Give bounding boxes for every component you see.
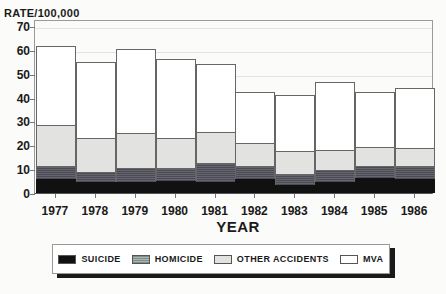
gridline (35, 52, 432, 53)
x-axis-title: YEAR (0, 218, 446, 235)
plot-area (34, 20, 433, 194)
legend-item-homicide: HOMICIDE (132, 254, 203, 264)
x-tick-label: 1977 (35, 204, 75, 218)
x-tick-label: 1983 (274, 204, 314, 218)
x-tick-label: 1981 (195, 204, 235, 218)
legend-label: SUICIDE (81, 254, 120, 264)
y-tick-label: 40 (0, 92, 30, 106)
y-tick-mark (30, 51, 35, 52)
y-tick-label: 30 (0, 115, 30, 129)
x-tick-label: 1982 (234, 204, 274, 218)
y-tick-mark (30, 170, 35, 171)
bar-segment-homicide (395, 166, 435, 179)
y-tick-mark (30, 27, 35, 28)
bar-segment-other (116, 133, 156, 168)
y-tick-mark (30, 99, 35, 100)
bar-segment-suicide (76, 182, 116, 193)
legend-swatch-mva (340, 255, 358, 264)
y-tick-label: 50 (0, 68, 30, 82)
bar-segment-other (36, 125, 76, 166)
bar-segment-mva (156, 59, 196, 138)
x-tick-mark (175, 194, 176, 198)
bar-segment-other (235, 143, 275, 166)
bar-segment-other (156, 138, 196, 168)
bar-1985 (355, 92, 395, 193)
bar-segment-homicide (235, 166, 275, 179)
legend-item-mva: MVA (340, 254, 384, 264)
x-tick-mark (374, 194, 375, 198)
x-tick-mark (95, 194, 96, 198)
x-tick-mark (55, 194, 56, 198)
x-tick-label: 1985 (354, 204, 394, 218)
bar-1981 (196, 64, 236, 193)
bar-segment-homicide (196, 163, 236, 182)
bar-segment-other (395, 148, 435, 166)
bar-segment-mva (76, 62, 116, 138)
y-tick-mark (30, 75, 35, 76)
bar-segment-mva (395, 88, 435, 148)
x-tick-label: 1986 (394, 204, 434, 218)
bar-segment-other (355, 147, 395, 166)
bar-segment-mva (196, 64, 236, 132)
bar-1984 (315, 82, 355, 193)
bar-1980 (156, 59, 196, 193)
bar-1982 (235, 92, 275, 193)
bar-1977 (36, 46, 76, 193)
legend-item-suicide: SUICIDE (58, 254, 120, 264)
bar-segment-homicide (116, 168, 156, 182)
y-tick-mark (30, 194, 35, 195)
bar-segment-suicide (156, 181, 196, 193)
bar-segment-other (275, 151, 315, 174)
y-tick-mark (30, 122, 35, 123)
bar-segment-other (76, 138, 116, 171)
x-tick-label: 1980 (155, 204, 195, 218)
bar-1986 (395, 88, 435, 193)
bar-segment-mva (116, 49, 156, 134)
bar-segment-homicide (355, 166, 395, 178)
x-tick-label: 1978 (75, 204, 115, 218)
bar-segment-suicide (275, 185, 315, 193)
y-tick-label: 10 (0, 163, 30, 177)
x-tick-label: 1979 (115, 204, 155, 218)
y-tick-label: 20 (0, 139, 30, 153)
x-tick-mark (254, 194, 255, 198)
bar-segment-suicide (235, 179, 275, 193)
bar-segment-suicide (355, 178, 395, 194)
y-axis-title: RATE/100,000 (4, 7, 80, 19)
y-tick-label: 60 (0, 44, 30, 58)
bar-1978 (76, 62, 116, 193)
y-tick-label: 0 (0, 187, 30, 201)
legend-label: OTHER ACCIDENTS (237, 254, 329, 264)
y-tick-mark (30, 146, 35, 147)
legend-label: MVA (363, 254, 384, 264)
legend-label: HOMICIDE (155, 254, 203, 264)
bar-segment-homicide (315, 170, 355, 182)
bar-segment-other (315, 150, 355, 170)
x-tick-mark (215, 194, 216, 198)
bar-segment-suicide (36, 179, 76, 193)
bar-segment-mva (315, 82, 355, 150)
bar-segment-homicide (36, 166, 76, 179)
bar-segment-homicide (156, 168, 196, 181)
bar-segment-homicide (76, 172, 116, 183)
bar-segment-mva (36, 46, 76, 125)
legend-swatch-other (214, 255, 232, 264)
bar-segment-suicide (116, 182, 156, 193)
x-tick-mark (294, 194, 295, 198)
x-tick-mark (135, 194, 136, 198)
legend-swatch-suicide (58, 255, 76, 264)
bar-1979 (116, 49, 156, 193)
bar-segment-homicide (275, 174, 315, 185)
bar-segment-suicide (315, 182, 355, 193)
legend-swatch-homicide (132, 255, 150, 264)
x-tick-mark (334, 194, 335, 198)
bar-segment-mva (235, 92, 275, 143)
bar-segment-mva (275, 95, 315, 151)
bar-segment-other (196, 132, 236, 163)
bar-1983 (275, 95, 315, 193)
gridline (35, 28, 432, 29)
legend: SUICIDEHOMICIDEOTHER ACCIDENTSMVA (52, 244, 390, 274)
x-tick-label: 1984 (314, 204, 354, 218)
bar-segment-suicide (196, 182, 236, 193)
y-tick-label: 70 (0, 20, 30, 34)
